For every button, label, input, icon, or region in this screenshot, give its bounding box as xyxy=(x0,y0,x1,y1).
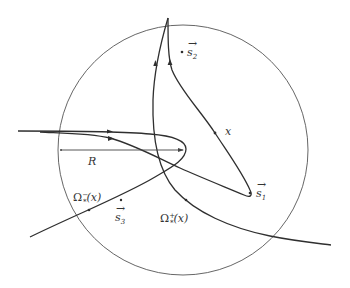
trajectory-omega-plus xyxy=(153,18,331,245)
label-omega-minus: Ω−*(x) xyxy=(73,191,101,206)
radius-arrow-head xyxy=(178,148,184,152)
diagram-canvas: s2 → x s1 → s3 → R Ω−*(x) Ω+*(x) xyxy=(0,0,350,288)
arrow-head-c xyxy=(107,130,113,134)
label-R: R xyxy=(87,155,96,168)
arrow-head-b2 xyxy=(108,136,114,141)
trajectory-loop xyxy=(40,18,251,196)
point-s3 xyxy=(120,199,122,201)
vec-s3: → xyxy=(116,202,125,215)
point-marker-a xyxy=(185,199,188,202)
label-x: x xyxy=(225,125,232,138)
point-marker-c xyxy=(88,209,91,212)
vec-s1: → xyxy=(257,178,266,191)
vec-s2: → xyxy=(188,37,197,50)
point-s1 xyxy=(249,192,252,195)
point-s2 xyxy=(181,51,184,54)
label-omega-plus: Ω+*(x) xyxy=(160,212,188,227)
radius-start-dot xyxy=(60,149,62,151)
arrow-head-b xyxy=(168,59,173,65)
point-x xyxy=(214,132,217,135)
